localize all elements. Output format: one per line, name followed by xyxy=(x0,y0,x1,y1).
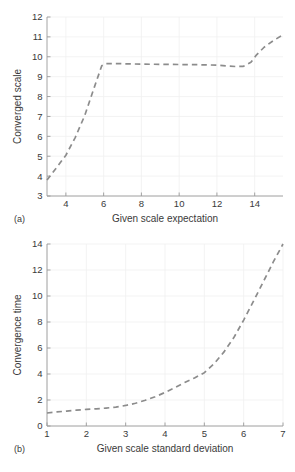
gridlines xyxy=(47,17,283,196)
y-tick-label: 6 xyxy=(37,342,42,353)
y-tick-label: 11 xyxy=(33,31,43,42)
x-tick-label: 2 xyxy=(84,428,89,439)
x-tick-label: 4 xyxy=(63,198,68,209)
x-tick-label: 12 xyxy=(212,198,223,209)
x-tick-label: 10 xyxy=(174,198,185,209)
y-tick-label: 14 xyxy=(32,238,43,249)
tick-group: 024681012141234567 xyxy=(32,238,286,439)
converged-scale-chart: 3456789101112468101214Given scale expect… xyxy=(0,0,295,236)
x-axis-title: Given scale expectation xyxy=(112,213,218,224)
y-tick-label: 9 xyxy=(37,71,42,82)
y-tick-label: 10 xyxy=(32,51,43,62)
x-tick-label: 3 xyxy=(123,428,128,439)
subfigure-label-b: (b) xyxy=(14,444,25,454)
x-tick-label: 8 xyxy=(139,198,144,209)
y-axis-title: Convergence time xyxy=(12,294,23,376)
y-tick-label: 6 xyxy=(37,131,42,142)
subfigure-label-a: (a) xyxy=(14,214,25,224)
x-axis-title: Given scale standard deviation xyxy=(97,443,234,454)
y-tick-label: 8 xyxy=(37,91,42,102)
x-tick-label: 4 xyxy=(162,428,167,439)
x-tick-label: 7 xyxy=(280,428,285,439)
y-tick-label: 12 xyxy=(32,264,43,275)
y-tick-label: 8 xyxy=(37,316,42,327)
x-tick-label: 6 xyxy=(101,198,106,209)
y-tick-label: 5 xyxy=(37,151,42,162)
y-tick-label: 12 xyxy=(32,11,43,22)
convergence-time-chart: 024681012141234567Given scale standard d… xyxy=(0,236,295,472)
x-tick-label: 14 xyxy=(249,198,260,209)
y-tick-label: 10 xyxy=(32,290,43,301)
x-tick-label: 6 xyxy=(241,428,246,439)
y-tick-label: 3 xyxy=(37,190,42,201)
x-tick-label: 5 xyxy=(202,428,207,439)
y-tick-label: 7 xyxy=(37,111,42,122)
converged-scale-panel: 3456789101112468101214Given scale expect… xyxy=(0,0,295,236)
convergence-time-panel: 024681012141234567Given scale standard d… xyxy=(0,236,295,472)
y-tick-label: 2 xyxy=(37,394,42,405)
y-tick-label: 4 xyxy=(37,368,42,379)
gridlines xyxy=(47,244,283,426)
x-tick-label: 1 xyxy=(44,428,49,439)
y-tick-label: 0 xyxy=(37,420,42,431)
y-tick-label: 4 xyxy=(37,171,42,182)
figure-container: 3456789101112468101214Given scale expect… xyxy=(0,0,295,472)
y-axis-title: Converged scale xyxy=(12,69,23,144)
